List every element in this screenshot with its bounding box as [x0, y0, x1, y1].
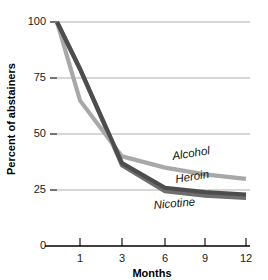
series-label-alcohol: Alcohol — [170, 144, 211, 162]
x-axis-title: Months — [132, 267, 171, 279]
series-label-nicotine: Nicotine — [153, 195, 195, 211]
y-tick-label-50: 50 — [34, 127, 46, 139]
y-tick-label-100: 100 — [28, 15, 46, 27]
series-line-alcohol — [57, 22, 246, 179]
abstainers-line-chart: 100 75 50 25 0 Percent of abstainers Alc… — [0, 0, 268, 280]
x-tick-label-1: 1 — [77, 252, 83, 264]
y-tick-label-0: 0 — [40, 239, 46, 251]
x-tick-marks — [80, 238, 246, 246]
chart-page: 100 75 50 25 0 Percent of abstainers Alc… — [0, 0, 268, 280]
x-tick-label-9: 9 — [202, 252, 208, 264]
y-axis-title: Percent of abstainers — [5, 63, 17, 175]
y-tick-marks — [50, 22, 57, 190]
y-tick-label-75: 75 — [34, 71, 46, 83]
x-tick-label-12: 12 — [240, 252, 252, 264]
y-tick-label-25: 25 — [34, 183, 46, 195]
x-tick-label-3: 3 — [119, 252, 125, 264]
x-tick-label-6: 6 — [162, 252, 168, 264]
